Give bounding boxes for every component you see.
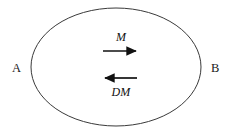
diagram-canvas: A B M DM xyxy=(0,0,236,134)
boundary-ellipse xyxy=(31,8,201,126)
forward-vector-label: M xyxy=(104,31,138,43)
endpoint-label-a: A xyxy=(12,62,21,75)
diagram-svg xyxy=(0,0,236,134)
endpoint-label-b: B xyxy=(211,62,219,75)
reverse-vector-label: DM xyxy=(101,86,141,98)
